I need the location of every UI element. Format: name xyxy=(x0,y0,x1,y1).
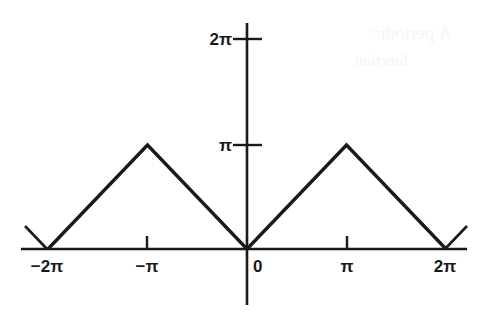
plot-canvas xyxy=(0,0,490,313)
y-tick-label-two-pi: 2π xyxy=(180,31,232,48)
x-tick-label-zero: 0 xyxy=(253,258,262,275)
triangle-wave-figure: −2π −π 0 π 2π π 2π A periodic function xyxy=(0,0,490,313)
y-tick-label-pi: π xyxy=(188,137,232,154)
wave-continuation-right xyxy=(445,226,467,249)
x-tick-label-pi: π xyxy=(340,258,353,275)
x-tick-label-two-pi: 2π xyxy=(434,258,456,275)
wave-continuation-left xyxy=(25,226,47,249)
x-tick-label-neg-pi: −π xyxy=(136,258,159,275)
x-tick-label-neg-two-pi: −2π xyxy=(31,258,63,275)
